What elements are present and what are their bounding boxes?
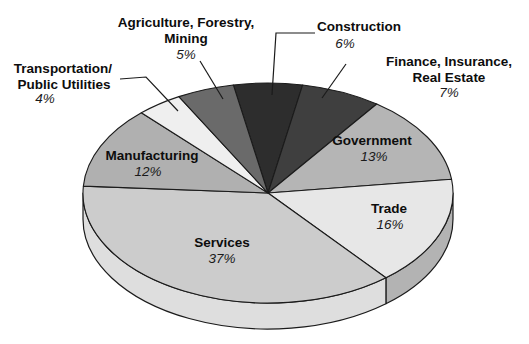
slice-pct-finance: 7% (439, 85, 459, 100)
slice-label-finance: Finance, Insurance, (386, 54, 512, 69)
slice-label-transportation: Transportation/ (14, 61, 113, 76)
pie-chart-figure: Construction6%Finance, Insurance,Real Es… (0, 0, 529, 344)
slice-pct-agriculture: 5% (176, 47, 196, 62)
slice-label-agriculture: Mining (164, 31, 208, 46)
slice-label-services: Services (194, 235, 250, 250)
slice-label-construction: Construction (317, 19, 401, 34)
slice-label-transportation: Public Utilities (17, 77, 110, 92)
pie-chart: Construction6%Finance, Insurance,Real Es… (0, 0, 529, 344)
slice-label-government: Government (332, 133, 412, 148)
slice-pct-construction: 6% (335, 36, 355, 51)
slice-label-manufacturing: Manufacturing (106, 148, 199, 163)
slice-label-agriculture: Agriculture, Forestry, (118, 15, 254, 30)
slice-pct-manufacturing: 12% (134, 164, 161, 179)
slice-label-trade: Trade (371, 201, 408, 216)
slice-pct-services: 37% (208, 251, 235, 266)
slice-pct-government: 13% (360, 149, 387, 164)
slice-pct-transportation: 4% (35, 91, 55, 106)
slice-pct-trade: 16% (376, 217, 403, 232)
slice-label-finance: Real Estate (413, 70, 486, 85)
